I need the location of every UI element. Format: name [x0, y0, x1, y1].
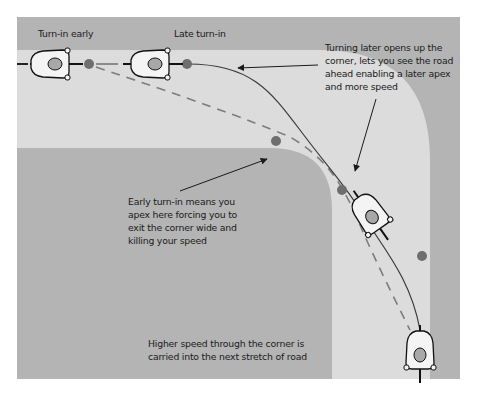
annotation-late-turn-in: Turning later opens up the corner, lets … — [325, 41, 453, 93]
annotation-line: Higher speed through the corner is — [148, 337, 307, 350]
annotation-higher-speed: Higher speed through the corner is carri… — [148, 337, 307, 363]
annotation-line: carried into the next stretch of road — [148, 350, 307, 363]
annotation-line: apex here forcing you to — [128, 208, 237, 221]
annotation-line: and more speed — [325, 80, 453, 93]
annotation-line: ahead enabling a later apex — [325, 67, 453, 80]
early-apex-dot — [271, 136, 281, 146]
annotation-early-turn-in: Early turn-in means you apex here forcin… — [128, 195, 237, 247]
early-exit-dot — [417, 251, 427, 261]
annotation-line: killing your speed — [128, 234, 237, 247]
annotation-line: Early turn-in means you — [128, 195, 237, 208]
annotation-line: corner, lets you see the road — [325, 54, 453, 67]
label-turn-in-early: Turn-in early — [38, 27, 93, 40]
turn-in-dot-late — [182, 59, 192, 69]
annotation-line: Turning later opens up the — [325, 41, 453, 54]
late-apex-dot — [337, 185, 347, 195]
annotation-line: exit the corner wide and — [128, 221, 237, 234]
turn-in-dot-early — [84, 59, 94, 69]
label-late-turn-in: Late turn-in — [174, 27, 226, 40]
